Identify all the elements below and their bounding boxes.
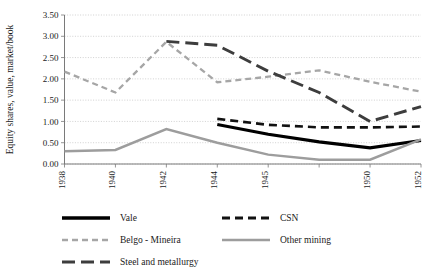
x-tick-label: 1950 (362, 171, 372, 190)
legend-label-csn: CSN (280, 213, 299, 223)
series-line-steel-and-metallurgy (166, 41, 421, 121)
y-axis-title-group: Equity shares, value, market/book (5, 24, 15, 154)
equity-shares-line-chart: 0.000.501.001.502.002.503.003.50 Equity … (0, 0, 430, 277)
legend-label-belgo-mineira: Belgo - Mineira (120, 235, 181, 245)
axes-group (61, 15, 421, 164)
y-tick-label: 1.50 (43, 95, 59, 105)
data-series-group (65, 41, 422, 159)
series-line-other-mining (65, 129, 422, 160)
y-axis-title: Equity shares, value, market/book (5, 24, 15, 154)
y-tick-label: 3.50 (43, 10, 59, 20)
y-tick-label: 2.50 (43, 53, 59, 63)
x-tick-label: 1942 (158, 171, 168, 189)
x-tick-label: 1944 (209, 171, 219, 190)
legend-group: ValeCSNBelgo - MineiraOther miningSteel … (62, 213, 331, 267)
legend-label-steel-and-metallurgy: Steel and metallurgy (120, 257, 199, 267)
y-tick-label: 3.00 (43, 31, 59, 41)
y-tick-label: 0.50 (43, 138, 59, 148)
x-tick-label: 1938 (57, 171, 67, 190)
x-tick-label: 1952 (413, 171, 423, 189)
y-tick-labels-group: 0.000.501.001.502.002.503.003.50 (43, 10, 59, 169)
series-line-belgo-mineira (65, 42, 422, 93)
x-tick-labels-group: 1938194019421944194519501952 (57, 164, 424, 189)
y-tick-label: 1.00 (43, 117, 59, 127)
y-tick-label: 0.00 (43, 159, 59, 169)
x-tick-label: 1945 (260, 171, 270, 190)
chart-canvas: 0.000.501.001.502.002.503.003.50 Equity … (0, 0, 430, 277)
series-line-csn (217, 119, 421, 128)
legend-label-vale: Vale (120, 213, 137, 223)
x-tick-label: 1940 (107, 171, 117, 190)
legend-label-other-mining: Other mining (280, 235, 331, 245)
y-tick-label: 2.00 (43, 74, 59, 84)
gridlines-group (65, 15, 422, 164)
